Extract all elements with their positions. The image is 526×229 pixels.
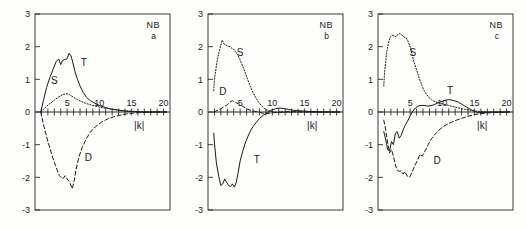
y-tick-label: 1 <box>25 75 30 85</box>
x-tick-label: 15 <box>299 98 309 108</box>
series-label-T: T <box>254 154 260 165</box>
series-label-T: T <box>447 85 453 96</box>
series-label-S: S <box>51 75 58 86</box>
series-label-D: D <box>434 155 441 166</box>
y-tick-label: 2 <box>25 42 30 52</box>
y-tick-label: -1 <box>365 140 373 150</box>
y-tick-label: -1 <box>195 140 203 150</box>
panel-corner-label: NB <box>489 20 503 30</box>
panel-id-label: b <box>324 31 329 41</box>
panel-id-label: c <box>495 31 500 41</box>
panel-corner-label: NB <box>146 20 160 30</box>
x-tick-label: 5 <box>408 98 413 108</box>
y-tick-label: -2 <box>195 173 203 183</box>
figure-container: 51015203210-1-2-3|k|NBaTSD51015203210-1-… <box>0 0 526 229</box>
plot-panel-c: 51015203210-1-2-3|k|NBcSTD <box>343 0 518 229</box>
y-tick-label: -2 <box>22 173 30 183</box>
y-tick-label: -1 <box>22 140 30 150</box>
panel-id-label: a <box>151 31 156 41</box>
x-tick-label: 5 <box>65 98 70 108</box>
x-tick-label: 20 <box>332 98 342 108</box>
series-label-T: T <box>81 57 87 68</box>
y-tick-label: 1 <box>198 75 203 85</box>
series-curve-D <box>41 112 167 189</box>
series-label-S: S <box>237 47 244 58</box>
y-tick-label: 0 <box>368 107 373 117</box>
series-label-D: D <box>219 86 226 97</box>
x-axis-label: |k| <box>477 120 487 131</box>
x-axis-label: |k| <box>134 120 144 131</box>
x-axis-label: |k| <box>307 120 317 131</box>
series-curve-D <box>384 112 510 177</box>
y-tick-label: 0 <box>198 107 203 117</box>
series-label-S: S <box>409 47 416 58</box>
y-tick-label: 2 <box>368 42 373 52</box>
series-curve-T <box>214 108 340 187</box>
plot-panel-a: 51015203210-1-2-3|k|NBaTSD <box>0 0 175 229</box>
x-tick-label: 10 <box>267 98 277 108</box>
y-tick-label: 3 <box>25 9 30 19</box>
plot-panel-b: 51015203210-1-2-3|k|NBbSDT <box>173 0 348 229</box>
y-tick-label: -2 <box>365 173 373 183</box>
y-tick-label: -3 <box>22 205 30 215</box>
y-tick-label: 3 <box>368 9 373 19</box>
panel-corner-label: NB <box>319 20 333 30</box>
series-label-D: D <box>85 152 92 163</box>
x-tick-label: 5 <box>238 98 243 108</box>
y-tick-label: 2 <box>198 42 203 52</box>
y-tick-label: 3 <box>198 9 203 19</box>
y-tick-label: -3 <box>365 205 373 215</box>
y-tick-label: -3 <box>195 205 203 215</box>
y-tick-label: 1 <box>368 75 373 85</box>
x-tick-label: 20 <box>502 98 512 108</box>
y-tick-label: 0 <box>25 107 30 117</box>
x-tick-label: 15 <box>469 98 479 108</box>
x-tick-label: 20 <box>159 98 169 108</box>
x-tick-label: 15 <box>126 98 136 108</box>
